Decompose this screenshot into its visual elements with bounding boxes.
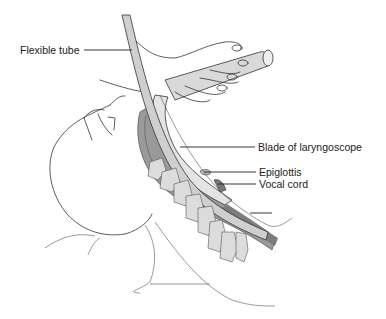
head-outline: [50, 96, 152, 235]
label-vocal-cord: Vocal cord: [259, 178, 308, 190]
label-blade-of-laryngoscope: Blade of laryngoscope: [258, 141, 362, 153]
laryngoscope-handle: [165, 50, 273, 100]
label-epiglottis: Epiglottis: [259, 166, 302, 178]
label-flexible-tube: Flexible tube: [20, 44, 80, 56]
